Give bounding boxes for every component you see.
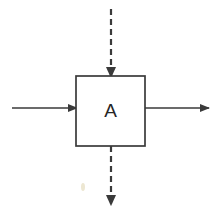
block-a-label: A bbox=[104, 100, 117, 121]
scan-smudge bbox=[81, 183, 85, 191]
block-diagram: A bbox=[0, 0, 218, 214]
diagram-canvas: A bbox=[0, 0, 218, 214]
